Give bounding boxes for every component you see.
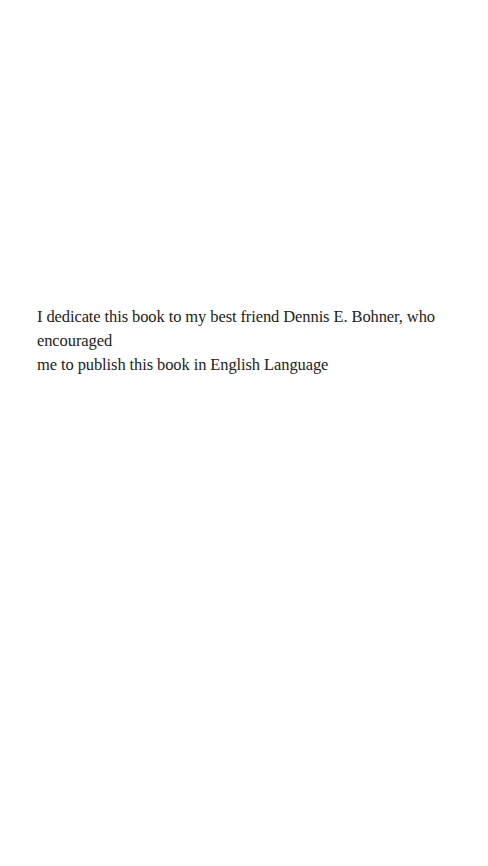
- book-page: I dedicate this book to my best friend D…: [0, 0, 488, 866]
- dedication-text: I dedicate this book to my best friend D…: [37, 305, 482, 377]
- dedication-line-1: I dedicate this book to my best friend D…: [37, 307, 435, 350]
- dedication-line-2: me to publish this book in English Langu…: [37, 355, 328, 374]
